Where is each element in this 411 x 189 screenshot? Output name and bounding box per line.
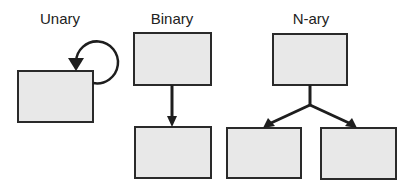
- unary-node: [18, 71, 93, 122]
- nary-parent-node: [273, 34, 347, 85]
- arrowhead-icon: [167, 116, 177, 127]
- binary-parent-node: [134, 33, 211, 85]
- nary-left-edge: [271, 105, 310, 123]
- label-nary: N-ary: [293, 10, 330, 27]
- binary-child-node: [135, 127, 211, 178]
- arrowhead-icon: [68, 58, 84, 71]
- nary-child-node-left: [227, 128, 301, 178]
- nary-child-node-right: [321, 128, 396, 179]
- diagram-canvas: Unary Binary N-ary: [0, 0, 411, 189]
- unary-group: [18, 41, 118, 122]
- nary-group: [227, 34, 396, 179]
- label-binary: Binary: [151, 10, 194, 27]
- label-unary: Unary: [40, 10, 81, 27]
- diagram-svg: Unary Binary N-ary: [0, 0, 411, 189]
- binary-group: [134, 33, 211, 178]
- nary-right-edge: [310, 105, 349, 123]
